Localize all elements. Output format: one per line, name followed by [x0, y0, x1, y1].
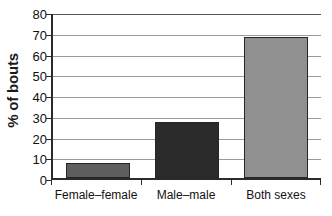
- bar-series: [53, 14, 321, 178]
- y-axis-tick-label: 70: [33, 28, 47, 41]
- y-axis-title-label: % of bouts: [4, 53, 21, 128]
- y-axis-tick-label: 80: [33, 8, 47, 21]
- x-axis-tick-mark: [320, 180, 321, 185]
- y-axis-title: % of bouts: [0, 0, 24, 180]
- bar-2: [155, 122, 219, 178]
- bar-1: [66, 163, 130, 178]
- y-axis-tick-label: 40: [33, 91, 47, 104]
- bar-3: [244, 37, 308, 178]
- bar-slot: [53, 14, 142, 178]
- x-axis-tick-mark: [51, 180, 52, 185]
- y-axis-tick-label: 20: [33, 132, 47, 145]
- x-axis-tick-mark: [141, 180, 142, 185]
- y-axis-tick-label: 60: [33, 49, 47, 62]
- y-axis-tick-label: 50: [33, 70, 47, 83]
- y-axis-tick-label: 10: [33, 153, 47, 166]
- y-axis-tick-label: 30: [33, 111, 47, 124]
- bar-slot: [142, 14, 231, 178]
- x-axis-label-3: Both sexes: [231, 188, 321, 202]
- x-axis-label-1: Female–female: [51, 188, 141, 202]
- x-axis-tick-mark: [231, 180, 232, 185]
- plot-area: [51, 14, 321, 180]
- x-axis-labels: Female–femaleMale–maleBoth sexes: [51, 188, 321, 202]
- bar-chart: % of bouts 01020304050607080 Female–fema…: [0, 0, 332, 216]
- x-axis-label-2: Male–male: [141, 188, 231, 202]
- bar-slot: [232, 14, 321, 178]
- x-axis-tick-marks: [51, 180, 321, 185]
